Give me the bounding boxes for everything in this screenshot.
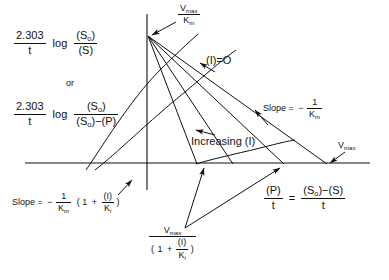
slope-uninhibited-label: Slope = − 1 Km <box>263 98 322 120</box>
log-operator-2: log <box>49 109 72 120</box>
log-arg-denominator-1: (S) <box>74 44 97 57</box>
coefficient-denominator-2: t <box>14 115 46 128</box>
inhibitor-one: 1 <box>82 198 87 207</box>
arrow-to-vmax-intercept <box>330 152 345 163</box>
x-axis-equals-sign: = <box>286 193 298 204</box>
km-denominator: Km <box>178 15 200 25</box>
product-rate-fraction: (P) t <box>264 185 283 211</box>
slope-prefix: Slope = <box>263 104 294 113</box>
apparent-vmax-denominator: ( 1 + (I) Ki ) <box>149 237 196 260</box>
y-axis-label-expression-1: 2.303 t log (So) (S) <box>14 30 97 56</box>
line-inhibitor-3 <box>148 36 197 164</box>
slope-inhibited-numerator: 1 <box>56 192 71 203</box>
log-argument-fraction-2: (So) (So)−(P) <box>74 101 118 127</box>
slope-numerator: 1 <box>307 98 322 109</box>
coefficient-fraction-2: 2.303 t <box>14 101 46 127</box>
apparent-open-paren: ( <box>151 245 154 254</box>
one-over-km-fraction: 1 Km <box>307 98 322 120</box>
apparent-vmax-numerator: Vmax <box>149 226 196 237</box>
log-operator-1: log <box>49 38 72 49</box>
inhibitor-plus: + <box>90 198 99 207</box>
coefficient-fraction-1: 2.303 t <box>14 30 46 56</box>
apparent-vmax-fraction: Vmax ( 1 + (I) Ki ) <box>149 226 196 260</box>
substrate-denominator: t <box>301 199 345 212</box>
substrate-depletion-fraction: (So)−(S) t <box>301 185 345 211</box>
y-intercept-label: Vmax Km <box>178 4 200 26</box>
log-arg-numerator-2: (So) <box>74 101 118 115</box>
apparent-ratio-numerator: (I) <box>176 238 189 249</box>
y-axis-label-expression-2: 2.303 t log (So) (So)−(P) <box>14 101 118 127</box>
arrow-to-y-intercept <box>152 22 176 35</box>
apparent-vmax-label: Vmax ( 1 + (I) Ki ) <box>149 226 196 260</box>
slope-inhibited-denominator: Km <box>56 203 71 213</box>
arrow-to-slope-inhibited <box>118 180 132 195</box>
vmax-intercept-label: Vmax <box>338 141 356 150</box>
apparent-ratio-denominator: Ki <box>176 250 189 260</box>
coefficient-numerator-2: 2.303 <box>14 101 46 115</box>
or-connector: or <box>66 79 74 88</box>
vmax-over-km-fraction: Vmax Km <box>178 4 200 26</box>
apparent-one: 1 <box>157 245 164 254</box>
log-arg-denominator-2: (So)−(P) <box>74 115 118 128</box>
vmax-numerator: Vmax <box>178 4 200 15</box>
slope-minus-sign: − <box>296 104 304 113</box>
inhibitor-ratio-denominator: Ki <box>102 203 115 213</box>
inhibitor-ratio-numerator: (I) <box>102 192 115 203</box>
apparent-inhibitor-ratio: (I) Ki <box>176 238 189 260</box>
product-denominator: t <box>264 199 283 212</box>
slope-inhibited-prefix: Slope = <box>12 198 43 207</box>
arrow-to-apparent-vmax-a <box>185 168 204 228</box>
slope-denominator: Km <box>307 109 322 119</box>
product-numerator: (P) <box>264 185 283 199</box>
x-axis-label: (P) t = (So)−(S) t <box>264 185 345 211</box>
no-inhibitor-line-label: (I)=O <box>206 55 231 66</box>
inhibitor-close-paren: ) <box>117 198 120 207</box>
slope-inhibited-minus: − <box>45 198 53 207</box>
apparent-plus: + <box>166 245 173 254</box>
inhibitor-open-paren: ( <box>74 198 80 207</box>
log-arg-numerator-1: (So) <box>74 30 97 44</box>
apparent-close-paren: ) <box>191 245 194 254</box>
coefficient-numerator: 2.303 <box>14 30 46 44</box>
inhibitor-ratio-fraction: (I) Ki <box>102 192 115 214</box>
vmax-subscript: max <box>344 144 356 151</box>
log-argument-fraction-1: (So) (S) <box>74 30 97 56</box>
increasing-inhibitor-label: Increasing (I) <box>191 136 255 147</box>
coefficient-denominator: t <box>14 44 46 57</box>
one-over-km-fraction-inhibited: 1 Km <box>56 192 71 214</box>
slope-inhibited-label: Slope = − 1 Km ( 1 + (I) Ki ) <box>12 192 120 214</box>
substrate-numerator: (So)−(S) <box>301 185 345 199</box>
